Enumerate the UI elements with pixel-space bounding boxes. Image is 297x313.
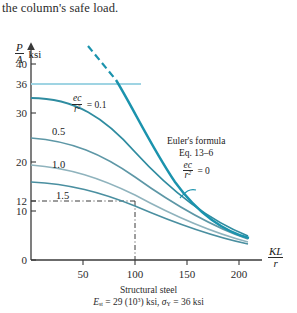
curve-label-1-5: 1.5	[56, 190, 69, 201]
ratio-value-0: = 0	[197, 166, 209, 176]
y-tick-0: 0	[22, 254, 28, 266]
x-tick-labels: 50 100 150 200	[78, 268, 248, 278]
caption-line-2: Est = 29 (103) ksi, σY = 36 ksi	[0, 297, 297, 307]
x-tick-100: 100	[127, 268, 144, 278]
column-design-chart: 0 10 12 20 30 36 40 50 100 150 200	[0, 38, 297, 278]
y-axis-fraction: P A	[15, 42, 24, 65]
euler-annotation-line1: Euler's formula	[167, 136, 225, 148]
caption-line-1: Structural steel	[0, 285, 297, 295]
y-tick-30: 30	[16, 107, 28, 119]
label-ec-r2-0-1: ec r2 = 0.1	[72, 94, 106, 114]
y-tick-36: 36	[16, 78, 28, 90]
curve-label-0-5: 0.5	[52, 126, 65, 137]
y-axis-title: P A ksi	[15, 42, 41, 65]
ratio-den-exp: 2	[78, 104, 81, 110]
ratio-den-exp-0: 2	[188, 170, 191, 176]
ratio-den-0: r2	[183, 171, 193, 181]
x-tick-50: 50	[78, 268, 90, 278]
y-axis-unit: ksi	[28, 48, 41, 60]
caption-E-unit: ) ksi,	[140, 297, 159, 307]
y-tick-marks	[31, 64, 36, 260]
euler-curve-dashed	[88, 46, 116, 80]
y-tick-12: 12	[16, 195, 27, 207]
curve-label-1-0: 1.0	[52, 159, 65, 170]
body-text-line: the column's safe load.	[2, 1, 118, 16]
caption-sigma-value: = 36 ksi	[173, 297, 204, 307]
x-axis-title: KL r	[268, 246, 283, 269]
ratio-fraction-0: ec r2	[183, 161, 193, 181]
y-tick-labels: 0 10 12 20 30 36 40	[16, 58, 28, 266]
ratio-value-0-1: = 0.1	[87, 100, 107, 110]
x-tick-150: 150	[179, 268, 196, 278]
ratio-fraction-0-1: ec r2	[72, 94, 82, 114]
ratio-den: r2	[72, 105, 82, 115]
caption-sigma-subscript: Y	[167, 301, 171, 307]
caption-E-subscript: st	[99, 301, 103, 307]
x-axis-den: r	[268, 258, 283, 269]
y-tick-20: 20	[16, 156, 28, 168]
x-tick-200: 200	[231, 268, 248, 278]
caption-E-value: = 29 (10	[105, 297, 137, 307]
figure-page: the column's safe load.	[0, 0, 297, 313]
euler-annotation-ratio: ec r2 = 0	[167, 161, 225, 181]
euler-annotation-line2: Eq. 13–6	[167, 148, 225, 160]
y-axis-den: A	[15, 54, 24, 65]
euler-annotation: Euler's formula Eq. 13–6 ec r2 = 0	[167, 136, 225, 181]
x-axis-fraction: KL r	[268, 246, 283, 269]
allowable-load-guide	[31, 201, 135, 260]
x-tick-marks	[83, 260, 239, 265]
